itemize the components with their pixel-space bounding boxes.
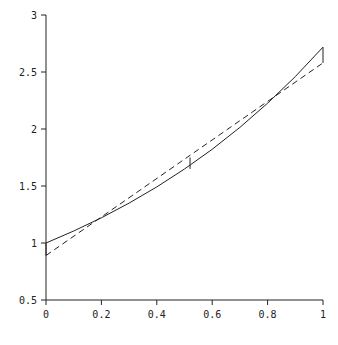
x-tick-label: 1: [320, 309, 326, 320]
axes: 00.20.40.60.810.511.522.53: [19, 10, 326, 321]
y-tick-label: 0.5: [19, 295, 37, 306]
dashed-line: [46, 63, 323, 256]
x-tick-label: 0.8: [259, 309, 277, 320]
line-chart: 00.20.40.60.810.511.522.53: [0, 0, 338, 345]
solid-curve: [46, 47, 323, 243]
y-tick-label: 2.5: [19, 67, 37, 78]
x-tick-label: 0: [43, 309, 49, 320]
y-tick-label: 1.5: [19, 181, 37, 192]
series-layer: [46, 47, 323, 255]
x-tick-label: 0.6: [203, 309, 221, 320]
x-tick-label: 0.4: [148, 309, 166, 320]
x-tick-label: 0.2: [92, 309, 110, 320]
y-tick-label: 3: [31, 10, 37, 21]
y-tick-label: 1: [31, 238, 37, 249]
y-tick-label: 2: [31, 124, 37, 135]
